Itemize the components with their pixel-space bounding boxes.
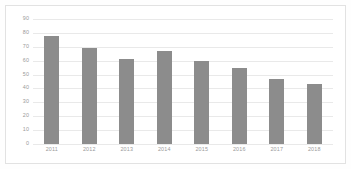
bar-slot — [108, 19, 146, 144]
x-tick-label: 2017 — [258, 147, 296, 152]
bar-chart-figure: 0102030405060708090 20112012201320142015… — [0, 0, 351, 169]
x-tick-label: 2016 — [221, 147, 259, 152]
y-tick-label: 10 — [23, 127, 29, 132]
x-tick-label: 2014 — [146, 147, 184, 152]
y-tick-label: 30 — [23, 100, 29, 105]
y-tick-label: 80 — [23, 30, 29, 35]
bars-layer — [33, 19, 333, 144]
bar-2016 — [232, 68, 247, 144]
bar-slot — [33, 19, 71, 144]
bar-slot — [296, 19, 334, 144]
y-tick-label: 60 — [23, 58, 29, 63]
bar-2013 — [119, 59, 134, 144]
x-tick-label: 2013 — [108, 147, 146, 152]
gridline-0 — [33, 144, 333, 145]
bar-slot — [71, 19, 109, 144]
y-tick-label: 20 — [23, 114, 29, 119]
y-axis-tick-labels: 0102030405060708090 — [5, 19, 31, 144]
bar-slot — [221, 19, 259, 144]
x-tick-label: 2011 — [33, 147, 71, 152]
bar-slot — [258, 19, 296, 144]
bar-2011 — [44, 36, 59, 144]
x-tick-label: 2012 — [71, 147, 109, 152]
bar-slot — [183, 19, 221, 144]
y-tick-label: 0 — [26, 141, 29, 146]
x-tick-label: 2015 — [183, 147, 221, 152]
bar-slot — [146, 19, 184, 144]
y-tick-label: 40 — [23, 86, 29, 91]
y-tick-label: 90 — [23, 16, 29, 21]
bar-2018 — [307, 84, 322, 144]
bar-2014 — [157, 51, 172, 144]
bar-2015 — [194, 61, 209, 144]
bar-2017 — [269, 79, 284, 144]
x-axis-tick-labels: 20112012201320142015201620172018 — [33, 147, 333, 152]
y-tick-label: 50 — [23, 72, 29, 77]
bar-2012 — [82, 48, 97, 144]
y-tick-label: 70 — [23, 44, 29, 49]
x-tick-label: 2018 — [296, 147, 334, 152]
